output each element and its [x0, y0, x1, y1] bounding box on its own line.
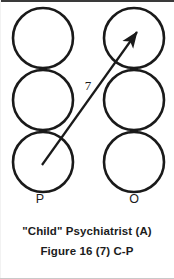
arrow-label-7: 7: [85, 78, 92, 93]
page-canvas: 7 P O "Child" Psychiatrist (A) Figure 16…: [0, 0, 174, 279]
circle-left-middle[interactable]: [13, 70, 73, 130]
column-label-o: O: [129, 192, 139, 206]
column-label-p: P: [36, 192, 44, 206]
circle-right-bottom[interactable]: [104, 132, 164, 192]
caption-figure-number: Figure 16 (7) C-P: [0, 244, 174, 259]
relation-arrow[interactable]: [42, 32, 137, 165]
circle-left-top[interactable]: [13, 8, 73, 68]
caption-title: "Child" Psychiatrist (A): [0, 224, 174, 239]
figure-caption: "Child" Psychiatrist (A) Figure 16 (7) C…: [0, 224, 174, 259]
circle-right-middle[interactable]: [104, 70, 164, 130]
sociogram-svg: 7 P O: [0, 0, 174, 215]
sociogram-figure: 7 P O: [0, 0, 174, 215]
